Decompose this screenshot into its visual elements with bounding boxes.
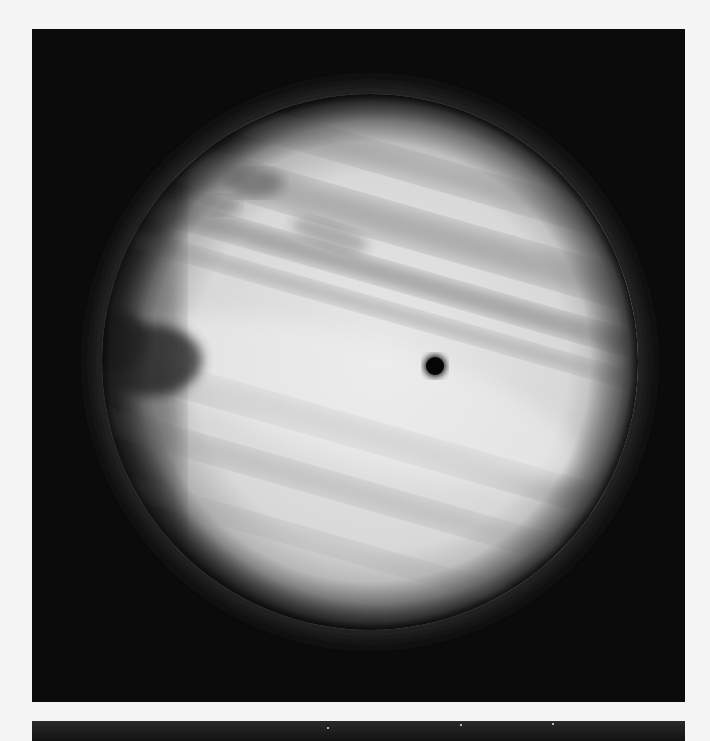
lower-photo-panel (32, 721, 685, 741)
star (327, 727, 329, 729)
jupiter-photo (32, 29, 685, 702)
photo-panel (32, 29, 685, 702)
cloud-bands (32, 73, 685, 650)
star (552, 723, 554, 725)
star (460, 724, 462, 726)
moon-shadow-core (426, 357, 444, 375)
